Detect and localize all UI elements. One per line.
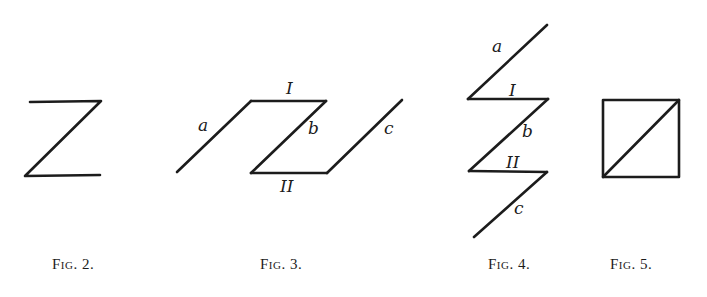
fig3-label-c: c — [384, 120, 394, 137]
fig5-caption: Fig. 5. — [610, 256, 652, 273]
fig4-caption: Fig. 4. — [488, 256, 530, 273]
fig4-line-a — [468, 25, 547, 99]
fig3-line-a — [177, 101, 251, 172]
fig4-label-b: b — [522, 123, 533, 140]
figure-3-drawing — [177, 100, 402, 173]
fig3-label-I: I — [286, 80, 293, 97]
fig4-label-c: c — [514, 200, 524, 217]
fig3-label-b: b — [308, 120, 319, 137]
fig4-label-a: a — [492, 38, 502, 55]
fig4-label-I: I — [509, 82, 516, 99]
figures-drawing — [0, 0, 707, 297]
fig3-caption: Fig. 3. — [260, 256, 302, 273]
fig4-line-c — [474, 172, 547, 237]
figure-5-drawing — [603, 100, 679, 177]
fig4-label-II: II — [506, 154, 519, 171]
fig3-label-a: a — [198, 117, 208, 134]
fig2-z-path — [25, 101, 101, 176]
fig3-label-II: II — [280, 178, 293, 195]
diagram-canvas: a I b c II a I b II c Fig. 2. Fig. 3. Fi… — [0, 0, 707, 297]
figure-2-drawing — [25, 101, 101, 176]
fig2-caption: Fig. 2. — [52, 256, 94, 273]
figure-4-drawing — [468, 25, 548, 237]
fig5-diagonal — [603, 100, 679, 177]
